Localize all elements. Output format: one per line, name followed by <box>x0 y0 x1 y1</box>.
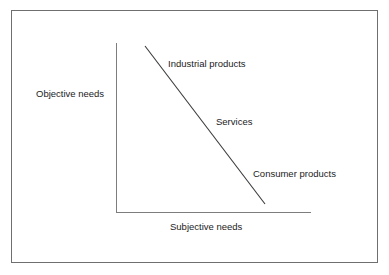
figure-root: Objective needs Subjective needs Industr… <box>0 0 389 275</box>
x-axis-line <box>116 212 311 213</box>
y-axis-line <box>116 43 117 213</box>
y-axis-label: Objective needs <box>36 88 104 100</box>
x-axis-label: Subjective needs <box>170 221 242 233</box>
annotation-industrial-products: Industrial products <box>168 58 246 70</box>
annotation-consumer-products: Consumer products <box>253 168 336 180</box>
annotation-services: Services <box>216 116 252 128</box>
